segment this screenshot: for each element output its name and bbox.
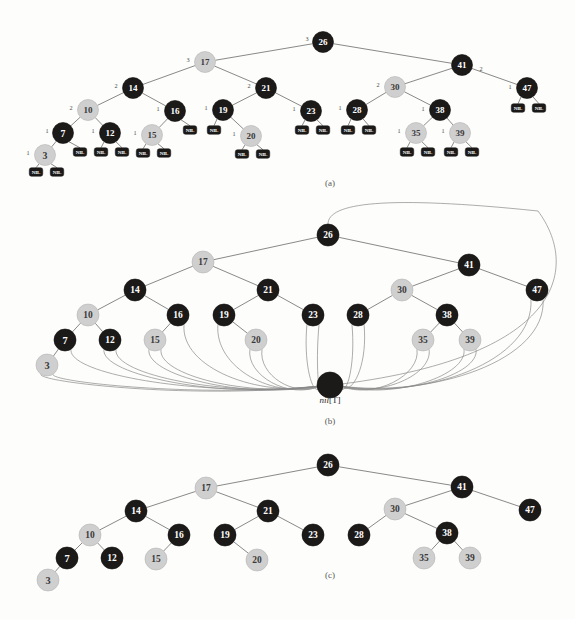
tree-node-16[interactable]: 16 bbox=[165, 101, 186, 122]
tree-edge-30-38 bbox=[404, 92, 430, 105]
nil-box-label: NIL bbox=[403, 150, 412, 155]
nil-leaf-20-left[interactable]: NIL bbox=[235, 150, 249, 159]
tree-node-21[interactable]: 21 bbox=[256, 78, 277, 99]
tree-node-15[interactable]: 15 bbox=[144, 329, 166, 351]
tree-edge-7-3 bbox=[55, 566, 60, 571]
node-circle bbox=[406, 123, 427, 144]
tree-node-39[interactable]: 39 bbox=[459, 329, 481, 351]
tree-edge-26-17 bbox=[214, 237, 317, 259]
nil-leaf-16-right[interactable]: NIL bbox=[183, 126, 197, 135]
tree-node-28[interactable]: 28 bbox=[347, 100, 368, 121]
tree-node-38[interactable]: 38 bbox=[430, 100, 451, 121]
tree-node-15[interactable]: 15 bbox=[145, 548, 167, 570]
tree-node-39[interactable]: 39 bbox=[450, 123, 471, 144]
tree-node-47[interactable]: 47 bbox=[526, 279, 548, 301]
tree-node-38[interactable]: 38 bbox=[436, 304, 458, 326]
tree-node-7[interactable]: 7 bbox=[54, 329, 76, 351]
tree-node-10[interactable]: 10 bbox=[77, 304, 99, 326]
node-circle bbox=[391, 279, 413, 301]
tree-edge-30-28 bbox=[368, 515, 386, 528]
tree-node-17[interactable]: 17 bbox=[195, 52, 216, 73]
tree-node-14[interactable]: 14 bbox=[123, 78, 144, 99]
tree-node-19[interactable]: 19 bbox=[213, 100, 234, 121]
tree-node-21[interactable]: 21 bbox=[257, 500, 279, 522]
tree-node-7[interactable]: 7 bbox=[56, 547, 78, 569]
nil-leaf-39-left[interactable]: NIL bbox=[444, 148, 458, 157]
nil-leaf-28-left[interactable]: NIL bbox=[341, 126, 355, 135]
tree-node-17[interactable]: 17 bbox=[192, 251, 214, 273]
tree-node-12[interactable]: 12 bbox=[101, 547, 123, 569]
tree-node-41[interactable]: 41 bbox=[451, 476, 473, 498]
nil-box-label: NIL bbox=[238, 152, 247, 157]
tree-node-30[interactable]: 30 bbox=[385, 77, 406, 98]
tree-node-41[interactable]: 41 bbox=[452, 55, 473, 76]
nil-leaf-15-left[interactable]: NIL bbox=[136, 149, 150, 158]
tree-node-21[interactable]: 21 bbox=[257, 279, 279, 301]
nil-leaf-12-right[interactable]: NIL bbox=[115, 148, 129, 157]
tree-node-12[interactable]: 12 bbox=[99, 329, 121, 351]
panel-c: 26174114213047101619232838712152035393 bbox=[37, 454, 541, 591]
nil-leaf-7-right[interactable]: NIL bbox=[73, 148, 87, 157]
sentinel-link-20-left bbox=[250, 349, 321, 390]
nil-leaf-47-right[interactable]: NIL bbox=[532, 104, 546, 113]
black-height-label-38: 1 bbox=[421, 105, 424, 112]
nil-leaf-23-left[interactable]: NIL bbox=[295, 126, 309, 135]
nil-leaf-35-right[interactable]: NIL bbox=[421, 148, 435, 157]
nil-leaf-12-left[interactable]: NIL bbox=[94, 148, 108, 157]
nil-leaf-3-right[interactable]: NIL bbox=[50, 168, 64, 177]
node-circle bbox=[450, 123, 471, 144]
nil-leaf-39-right[interactable]: NIL bbox=[465, 148, 479, 157]
tree-node-7[interactable]: 7 bbox=[53, 123, 74, 144]
tree-node-12[interactable]: 12 bbox=[100, 123, 121, 144]
nil-leaf-3-left[interactable]: NIL bbox=[29, 168, 43, 177]
tree-node-26[interactable]: 26 bbox=[317, 224, 339, 246]
tree-node-19[interactable]: 19 bbox=[214, 524, 236, 546]
tree-node-26[interactable]: 26 bbox=[313, 32, 334, 53]
tree-node-35[interactable]: 35 bbox=[413, 547, 435, 569]
nil-edge-3-left bbox=[36, 164, 39, 168]
tree-node-38[interactable]: 38 bbox=[436, 522, 458, 544]
panel-a: 3322221211111111111126174114213047101619… bbox=[26, 32, 545, 177]
tree-node-17[interactable]: 17 bbox=[195, 477, 217, 499]
tree-node-3[interactable]: 3 bbox=[37, 569, 59, 591]
nil-leaf-19-left[interactable]: NIL bbox=[207, 126, 221, 135]
tree-node-23[interactable]: 23 bbox=[301, 101, 322, 122]
tree-node-23[interactable]: 23 bbox=[302, 524, 324, 546]
nil-leaf-20-right[interactable]: NIL bbox=[256, 150, 270, 159]
tree-node-30[interactable]: 30 bbox=[391, 279, 413, 301]
tree-node-28[interactable]: 28 bbox=[347, 304, 369, 326]
tree-node-47[interactable]: 47 bbox=[517, 78, 538, 99]
tree-node-28[interactable]: 28 bbox=[348, 524, 370, 546]
tree-node-16[interactable]: 16 bbox=[167, 304, 189, 326]
node-circle bbox=[517, 78, 538, 99]
tree-node-3[interactable]: 3 bbox=[36, 354, 58, 376]
nil-box-label: NIL bbox=[424, 150, 433, 155]
tree-node-23[interactable]: 23 bbox=[302, 304, 324, 326]
nil-leaf-28-right[interactable]: NIL bbox=[362, 126, 376, 135]
nil-leaf-35-left[interactable]: NIL bbox=[400, 148, 414, 157]
tree-node-20[interactable]: 20 bbox=[245, 329, 267, 351]
tree-node-47[interactable]: 47 bbox=[519, 499, 541, 521]
tree-node-19[interactable]: 19 bbox=[213, 304, 235, 326]
tree-node-20[interactable]: 20 bbox=[241, 126, 262, 147]
tree-node-35[interactable]: 35 bbox=[412, 329, 434, 351]
tree-node-15[interactable]: 15 bbox=[142, 125, 163, 146]
tree-node-10[interactable]: 10 bbox=[78, 100, 99, 121]
tree-node-30[interactable]: 30 bbox=[384, 498, 406, 520]
tree-node-10[interactable]: 10 bbox=[79, 524, 101, 546]
tree-node-26[interactable]: 26 bbox=[317, 454, 339, 476]
tree-node-39[interactable]: 39 bbox=[459, 547, 481, 569]
nil-edge-20-left bbox=[242, 145, 245, 150]
tree-node-14[interactable]: 14 bbox=[125, 500, 147, 522]
tree-node-3[interactable]: 3 bbox=[35, 145, 56, 166]
nil-edge-7-right bbox=[69, 142, 80, 148]
nil-leaf-15-right[interactable]: NIL bbox=[157, 149, 171, 158]
figure-canvas: 3322221211111111111126174114213047101619… bbox=[0, 0, 575, 619]
tree-node-16[interactable]: 16 bbox=[168, 524, 190, 546]
tree-node-14[interactable]: 14 bbox=[124, 279, 146, 301]
nil-leaf-23-right[interactable]: NIL bbox=[316, 126, 330, 135]
tree-node-41[interactable]: 41 bbox=[458, 254, 480, 276]
nil-leaf-47-left[interactable]: NIL bbox=[511, 104, 525, 113]
tree-node-20[interactable]: 20 bbox=[246, 549, 268, 571]
tree-node-35[interactable]: 35 bbox=[406, 123, 427, 144]
